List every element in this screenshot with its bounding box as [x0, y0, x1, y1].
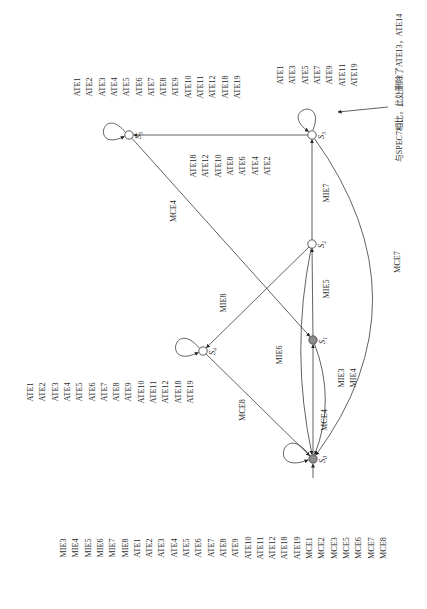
edge-S2-S0: [301, 248, 312, 454]
transition-label: MIE3: [337, 368, 346, 387]
self-loop-label-s0-item: ATE4: [170, 538, 179, 557]
self-loop-label-s3-item: ATE3: [288, 65, 297, 84]
self-loop-label-s0-item: MIE5: [84, 538, 93, 557]
self-loop-label-s0-item: MCE7: [367, 537, 376, 559]
self-loop-label-s3-item: ATE19: [350, 63, 359, 86]
self-loop-label-s0-item: MIE6: [96, 538, 105, 557]
transition-label: ATE4: [251, 156, 260, 175]
transition-label: MIE7: [322, 183, 331, 202]
self-loop-label-s5-item: ATE11: [196, 76, 205, 99]
state-label-s1: S1: [317, 337, 328, 344]
state-label-s4: S4: [207, 348, 218, 355]
self-loop-label-s4-item: ATE19: [186, 380, 195, 403]
self-loop-label-s0-item: ATE19: [293, 536, 302, 559]
state-diagram: S0S1S2S3S4S5MIE3MIE4MIE5MIE6MIE7MIE8ATE1…: [0, 0, 427, 609]
edge-S1-S0: [315, 344, 326, 455]
self-loop-label-s0-item: ATE10: [244, 536, 253, 559]
state-node-s4[interactable]: [199, 347, 207, 355]
self-loop-label-s5-item: ATE12: [208, 75, 217, 98]
self-loop-label-s0-item: ATE11: [256, 537, 265, 560]
self-loop-label-s0-item: ATE8: [219, 538, 228, 557]
self-loop-label-s4-item: ATE3: [51, 382, 60, 401]
self-loop-label-s3-item: ATE5: [301, 65, 310, 84]
self-loop-label-s5-item: ATE6: [135, 77, 144, 96]
edge-S4-S0: [206, 354, 310, 456]
transition-label: MCE7: [393, 251, 402, 273]
self-loop-label-s3-item: ATE9: [325, 65, 334, 84]
transition-label: ATE18: [189, 154, 198, 177]
transition-label: MIE5: [322, 279, 331, 298]
self-loop-label-s5-item: ATE3: [98, 77, 107, 96]
self-loop-label-s5-item: ATE7: [147, 77, 156, 96]
self-loop-label-s4-item: ATE18: [174, 380, 183, 403]
self-loop-label-s0-item: MCE8: [379, 537, 388, 559]
self-loop-label-s0-item: MIE3: [59, 538, 68, 557]
state-label-s5: S5: [133, 132, 144, 139]
self-loop-label-s0-item: MIE4: [71, 538, 80, 557]
transition-label: MCE4: [320, 409, 329, 431]
state-node-s5[interactable]: [125, 131, 133, 139]
self-loop-label-s0-item: ATE6: [194, 538, 203, 557]
annotation-arrow: [338, 107, 388, 112]
transition-label: MIE4: [349, 368, 358, 387]
transition-label: ATE10: [214, 154, 223, 177]
self-loop-label-s0-item: ATE12: [268, 536, 277, 559]
self-loop-label-s4-item: ATE7: [100, 382, 109, 401]
self-loop-label-s5-item: ATE2: [85, 77, 94, 96]
state-node-s3[interactable]: [308, 131, 316, 139]
transition-label: MIE6: [275, 345, 284, 364]
self-loop-label-s0-item: MCE2: [317, 537, 326, 559]
self-loop-label-s5-item: ATE5: [122, 77, 131, 96]
self-loop-label-s4-item: ATE1: [26, 382, 35, 401]
self-loop-label-s5-item: ATE18: [221, 75, 230, 98]
self-loop-label-s0-item: ATE2: [145, 538, 154, 557]
self-loop-label-s5-item: ATE8: [159, 77, 168, 96]
self-loop-label-s0-item: ATE9: [231, 538, 240, 557]
self-loop-S4: [176, 338, 200, 356]
self-loop-label-s5-item: ATE10: [184, 75, 193, 98]
self-loop-label-s4-item: ATE2: [38, 382, 47, 401]
self-loop-label-s0-item: MIE8: [121, 538, 130, 557]
self-loop-label-s5-item: ATE19: [233, 75, 242, 98]
self-loop-label-s4-item: ATE4: [63, 382, 72, 401]
self-loop-label-s4-item: ATE5: [75, 382, 84, 401]
self-loop-label-s0-item: MCE1: [305, 537, 314, 559]
self-loop-label-s0-item: MCE3: [330, 537, 339, 559]
transition-label: ATE2: [263, 156, 272, 175]
transition-label: MCE8: [238, 399, 247, 421]
transition-label: MCE4: [169, 200, 178, 222]
self-loop-label-s0-item: MCE6: [354, 537, 363, 559]
self-loop-S5: [103, 123, 125, 140]
state-node-s1[interactable]: [309, 336, 317, 344]
self-loop-label-s5-item: ATE4: [110, 77, 119, 96]
transition-label: ATE6: [238, 156, 247, 175]
self-loop-S0: [283, 443, 309, 463]
self-loop-label-s5-item: ATE9: [171, 77, 180, 96]
self-loop-label-s0-item: MCE5: [342, 537, 351, 559]
transition-label: MIE8: [219, 293, 228, 312]
state-node-s2[interactable]: [308, 240, 316, 248]
edge-S1-S2: [312, 249, 313, 336]
self-loop-label-s4-item: ATE11: [149, 381, 158, 404]
state-label-s3: S3: [316, 132, 327, 139]
annotation-note: 与SPEC7相比，此处删除了ATE13，ATE14: [394, 14, 404, 162]
self-loop-label-s4-item: ATE12: [161, 380, 170, 403]
self-loop-label-s4-item: ATE9: [124, 382, 133, 401]
self-loop-label-s4-item: ATE8: [112, 382, 121, 401]
self-loop-label-s4-item: ATE6: [88, 382, 97, 401]
self-loop-label-s0-item: ATE3: [157, 538, 166, 557]
transition-label: ATE12: [201, 154, 210, 177]
self-loop-label-s3-item: ATE11: [338, 64, 347, 87]
state-node-s0[interactable]: [309, 455, 317, 463]
self-loop-label-s3-item: ATE1: [276, 65, 285, 84]
self-loop-label-s0-item: ATE7: [207, 538, 216, 557]
self-loop-label-s0-item: MIE7: [108, 538, 117, 557]
self-loop-label-s4-item: ATE10: [137, 380, 146, 403]
self-loop-label-s3-item: ATE7: [313, 65, 322, 84]
self-loop-label-s0-item: ATE18: [280, 536, 289, 559]
self-loop-S3: [298, 109, 315, 131]
self-loop-label-s0-item: ATE1: [133, 538, 142, 557]
state-label-s2: S2: [316, 241, 327, 248]
state-label-s0: S0: [317, 456, 328, 463]
self-loop-label-s5-item: ATE1: [73, 77, 82, 96]
